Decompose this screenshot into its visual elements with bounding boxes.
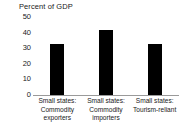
x-tick-label-line: Commodity [29,106,85,115]
bar [148,44,162,95]
x-tick-label-line: Small states: [78,97,134,106]
x-tick-label: Small states:Tourism-reliant [127,97,183,114]
y-tick-label: 40 [13,29,31,37]
y-axis: 01020304050 [9,17,31,95]
chart-title: Percent of GDP [19,2,73,11]
y-tick-label: 20 [13,60,31,68]
x-tick-label-line: Small states: [29,97,85,106]
bar [99,30,113,95]
x-tick-label-line: Tourism-reliant [127,106,183,115]
y-tick-label: 10 [13,76,31,84]
x-tick-label: Small states:Commodityimporters [78,97,134,123]
x-tick-label-line: Commodity [78,106,134,115]
x-tick-label-line: importers [78,114,134,123]
x-axis-tick-labels: Small states:CommodityexportersSmall sta… [33,97,179,134]
bar [50,44,64,95]
plot-area [33,17,179,95]
x-axis-baseline [33,95,179,96]
y-tick-label: 30 [13,44,31,52]
y-tick-label: 0 [13,91,31,99]
bar-chart: Percent of GDP 01020304050 Small states:… [0,0,183,134]
x-tick-label-line: Small states: [127,97,183,106]
y-tick-label: 50 [13,13,31,21]
x-tick-label-line: exporters [29,114,85,123]
x-tick-label: Small states:Commodityexporters [29,97,85,123]
